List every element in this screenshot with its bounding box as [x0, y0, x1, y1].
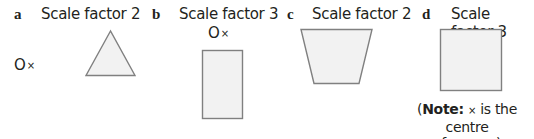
cross-icon: × [468, 105, 476, 116]
note-line2: of square) [433, 135, 501, 139]
rectangle-shape-b [203, 51, 243, 119]
square-shape-d [441, 30, 502, 91]
triangle-shape-a [86, 31, 135, 76]
note-text: (Note: × is the centre of square) [400, 101, 534, 139]
note-label: Note: [422, 101, 464, 117]
trapezoid-shape-c [301, 30, 372, 84]
